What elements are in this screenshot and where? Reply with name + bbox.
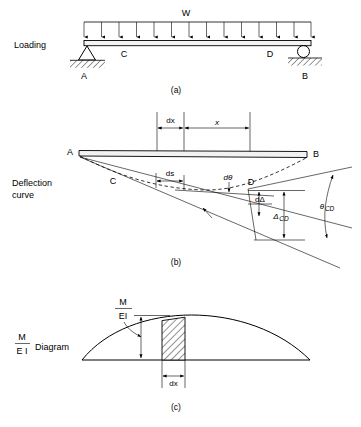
dim-label-dx: dx [166,116,174,125]
point-label-a1: A [81,71,87,81]
dim-label-dtheta: dθ [224,173,233,182]
caption-a: (a) [171,85,182,95]
mei-label-numerator: M [119,297,127,307]
point-label-d1: D [267,49,274,59]
theta-cd-sub: CD [325,205,335,212]
delta-cd-main: Δ [272,212,278,221]
dim-label-dxc: dx [169,379,177,388]
caption-b: (b) [171,257,182,267]
point-label-c1: C [121,49,128,59]
dim-label-theta-cd: θCD [320,202,335,212]
mei-label-denominator: EI [119,311,128,321]
mei-curve [82,315,310,360]
dim-label-ds: ds [166,169,174,178]
engineering-figure: Loading W [0,0,361,427]
dim-label-ddelta: dΔ [255,195,265,204]
point-label-b2: B [313,149,319,159]
delta-cd-sub: CD [279,215,289,222]
pin-support-a [70,46,105,68]
ground-hatch-b [288,58,322,66]
panel-b-side-label-line1: Deflection [12,178,52,188]
dim-label-delta-cd: ΔCD [272,212,289,222]
tangent-line-c [80,157,340,268]
ground-hatch-a [70,60,105,68]
caption-c: (c) [171,402,181,412]
side-label-denominator: E I [16,346,27,356]
panel-b-side-label-line2: curve [12,190,34,200]
tangent-line-d-right [248,167,352,189]
roller-support-b [288,46,322,66]
panel-mei-diagram: M E I Diagram M EI [15,297,310,412]
dim-label-x: x [214,118,220,127]
mei-strip-hatched [162,317,185,360]
figure-root: Loading W [0,0,361,427]
panel-a-side-label: Loading [14,40,46,50]
point-label-d2: D [248,177,255,187]
panel-loading: Loading W [14,8,322,95]
side-label-numerator: M [18,332,26,342]
load-arrow-group [84,22,311,37]
point-label-c2: C [110,176,117,186]
side-label-word: Diagram [35,342,69,352]
mei-label-pointer [124,322,141,337]
panel-c-side-label: M E I Diagram [15,332,69,356]
beam-b [79,151,307,158]
point-label-a2: A [67,147,73,157]
load-label-w: W [182,8,191,18]
point-label-b1: B [302,71,308,81]
panel-deflection-curve: Deflection curve dx x A B [12,112,352,268]
beam-a [84,41,311,46]
